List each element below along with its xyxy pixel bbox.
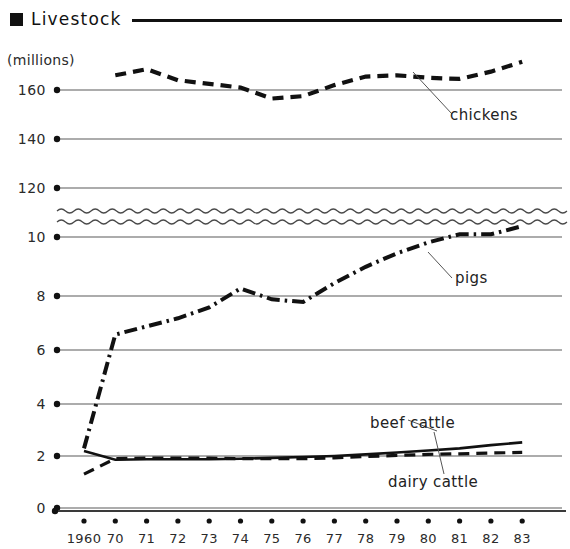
y-tick-label: 8	[37, 288, 46, 304]
x-tick-label: 1960	[67, 531, 102, 546]
y-tick-label: 6	[37, 342, 46, 358]
x-tick-dot	[488, 518, 493, 523]
pigs-label: pigs	[455, 269, 488, 287]
y-tick-dot	[54, 87, 60, 93]
x-tick-label: 81	[451, 531, 468, 546]
y-tick-dot	[54, 401, 60, 407]
axis-break-wave-upper	[57, 209, 567, 213]
x-tick-label: 83	[514, 531, 531, 546]
x-tick-dot	[426, 518, 431, 523]
x-tick-dot	[238, 518, 243, 523]
x-tick-dot	[301, 518, 306, 523]
y-tick-label: 0	[37, 500, 46, 516]
y-tick-dot	[54, 453, 60, 459]
livestock-line-chart: 1601401201086420196070717273747576777879…	[0, 0, 570, 549]
y-tick-label: 10	[27, 229, 46, 245]
y-tick-label: 4	[37, 396, 46, 412]
axis-break-wave-lower	[57, 220, 567, 224]
y-tick-label: 2	[37, 448, 46, 464]
chickens-label: chickens	[450, 106, 518, 124]
x-tick-label: 79	[388, 531, 405, 546]
x-tick-label: 74	[232, 531, 249, 546]
dairy-cattle-label: dairy cattle	[388, 473, 478, 491]
y-tick-label: 120	[18, 180, 46, 196]
y-tick-label: 160	[18, 82, 46, 98]
x-tick-dot	[520, 518, 525, 523]
x-tick-dot	[144, 518, 149, 523]
x-tick-label: 78	[357, 531, 374, 546]
beef-cattle-label: beef cattle	[370, 414, 455, 432]
x-tick-dot	[363, 518, 368, 523]
y-tick-dot	[54, 293, 60, 299]
y-tick-dot	[54, 347, 60, 353]
x-tick-dot	[81, 518, 86, 523]
x-tick-label: 71	[138, 531, 155, 546]
y-tick-dot	[54, 136, 60, 142]
x-tick-label: 73	[201, 531, 218, 546]
x-tick-label: 75	[263, 531, 280, 546]
y-tick-dot	[54, 234, 60, 240]
x-tick-dot	[207, 518, 212, 523]
x-tick-label: 80	[420, 531, 437, 546]
pigs-leader-line	[428, 252, 452, 278]
series-line-pigs	[84, 226, 522, 448]
x-tick-label: 77	[326, 531, 343, 546]
x-axis-origin-dot	[52, 508, 58, 514]
series-line-chickens	[115, 62, 522, 99]
x-tick-dot	[269, 518, 274, 523]
y-tick-label: 140	[18, 131, 46, 147]
x-tick-dot	[394, 518, 399, 523]
x-tick-label: 82	[482, 531, 499, 546]
x-tick-label: 76	[294, 531, 311, 546]
x-tick-dot	[175, 518, 180, 523]
x-tick-dot	[457, 518, 462, 523]
x-tick-dot	[113, 518, 118, 523]
y-tick-dot	[54, 185, 60, 191]
x-tick-dot	[332, 518, 337, 523]
x-tick-label: 72	[169, 531, 186, 546]
chart-page: Livestock (millions) 1601401201086420196…	[0, 0, 570, 549]
x-tick-label: 70	[107, 531, 124, 546]
